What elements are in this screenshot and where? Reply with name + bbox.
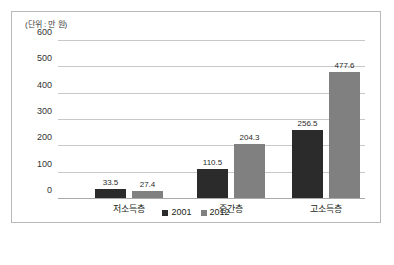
bar-value-label: 256.5 xyxy=(297,119,317,128)
bar-group: 256.5477.6고소득층 xyxy=(281,41,371,199)
bar: 256.5 xyxy=(292,130,323,198)
legend-label: 2012 xyxy=(210,208,230,217)
bar: 33.5 xyxy=(95,189,126,198)
plot-area: 6005004003002001000 33.527.4저소득층110.5204… xyxy=(58,41,365,199)
bar: 27.4 xyxy=(132,191,163,198)
y-axis-tick-label: 500 xyxy=(37,54,52,63)
bar: 204.3 xyxy=(234,144,265,198)
y-axis-tick-label: 200 xyxy=(37,133,52,142)
bar-value-label: 33.5 xyxy=(103,178,119,187)
y-axis-tick-label: 300 xyxy=(37,107,52,116)
bar-group: 33.527.4저소득층 xyxy=(84,41,174,199)
legend-item[interactable]: 2001 xyxy=(162,208,191,217)
bar-value-label: 204.3 xyxy=(239,133,259,142)
bar-value-label: 27.4 xyxy=(140,180,156,189)
legend-item[interactable]: 2012 xyxy=(201,208,230,217)
legend-swatch-icon xyxy=(162,210,168,216)
bar-group: 110.5204.3중간층 xyxy=(186,41,276,199)
bar: 110.5 xyxy=(197,169,228,198)
legend-swatch-icon xyxy=(201,210,207,216)
bar-value-label: 477.6 xyxy=(334,61,354,70)
bar: 477.6 xyxy=(329,72,360,198)
legend-label: 2001 xyxy=(171,208,191,217)
chart-container: (단위 : 만 원) 6005004003002001000 33.527.4저… xyxy=(11,11,381,223)
y-axis-tick-label: 100 xyxy=(37,159,52,168)
bar-value-label: 110.5 xyxy=(203,158,222,167)
y-axis-tick-label: 0 xyxy=(47,186,52,195)
y-axis-tick-label: 400 xyxy=(37,80,52,89)
chart-legend: 20012012 xyxy=(12,208,380,217)
y-axis-tick-label: 600 xyxy=(37,28,52,37)
